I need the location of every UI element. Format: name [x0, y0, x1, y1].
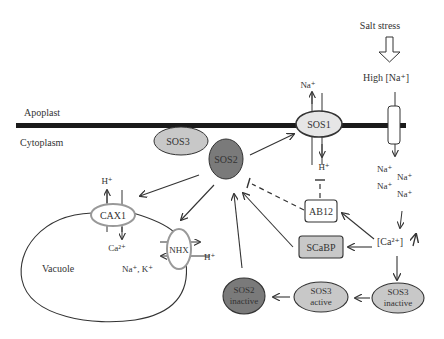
svg-text:SOS3: SOS3 [166, 136, 189, 147]
cax1-ca-in: Ca²⁺ [108, 243, 126, 253]
svg-text:inactive: inactive [384, 298, 413, 308]
na-ion-1: Na⁺ [377, 164, 392, 174]
apoplast-label: Apoplast [24, 107, 60, 118]
calcium-label: [Ca²⁺] [377, 236, 403, 247]
sos1-h-in: H⁺ [318, 162, 329, 172]
salt-stress-diagram: Apoplast Cytoplasm Salt stress High [Na⁺… [0, 0, 444, 339]
plasma-membrane [16, 123, 406, 128]
cax1-h-out: H⁺ [101, 176, 112, 186]
sos1-na-out: Na⁺ [300, 80, 315, 90]
na-ion-4: Na⁺ [397, 189, 412, 199]
stimulus-arrow-icon [379, 37, 400, 62]
vacuole-label: Vacuole [42, 263, 75, 274]
svg-text:SOS3: SOS3 [310, 286, 332, 296]
svg-text:CAX1: CAX1 [100, 210, 126, 221]
cytoplasm-label: Cytoplasm [20, 137, 64, 148]
svg-text:SOS2: SOS2 [233, 285, 254, 295]
svg-text:NHX: NHX [169, 245, 189, 255]
svg-text:active: active [310, 297, 332, 307]
na-channel-icon [388, 106, 400, 144]
svg-text:SOS3: SOS3 [387, 287, 409, 297]
svg-text:inactive: inactive [230, 296, 259, 306]
svg-text:SOS2: SOS2 [214, 154, 237, 165]
na-ion-3: Na⁺ [377, 181, 392, 191]
increase-arrow-icon [413, 234, 416, 246]
svg-text:SOS1: SOS1 [307, 119, 330, 130]
na-ion-2: Na⁺ [397, 172, 412, 182]
nhx-h: H⁺ [204, 252, 215, 262]
svg-text:AB12: AB12 [309, 206, 333, 217]
nhx-na-k: Na⁺, K⁺ [122, 264, 153, 274]
high-na-label: High [Na⁺] [363, 72, 409, 83]
svg-text:SCaBP: SCaBP [307, 242, 336, 253]
salt-stress-label: Salt stress [360, 20, 400, 31]
